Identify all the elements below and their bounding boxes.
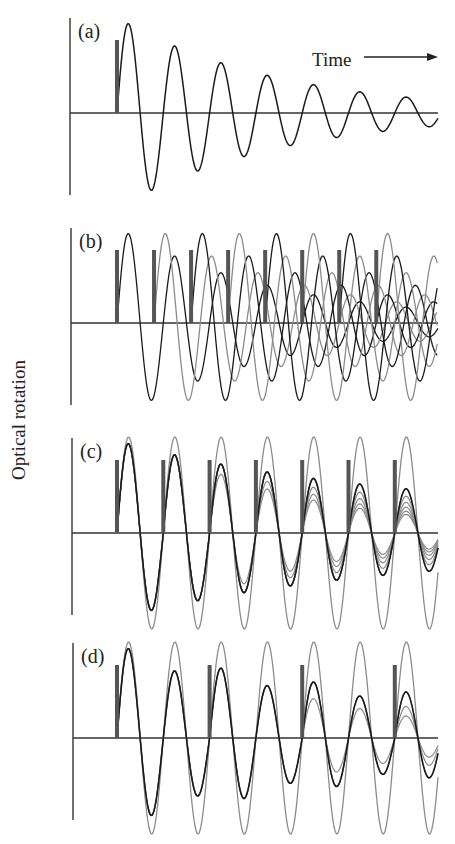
pulse-bar [300, 665, 304, 738]
pulse-bar [152, 250, 156, 323]
pulse-bar [374, 250, 378, 323]
component-wave [117, 234, 438, 401]
panel-label: (d) [81, 645, 104, 668]
panel-label: (b) [79, 230, 102, 253]
pulse-bar [300, 250, 304, 323]
time-arrow-head-icon [427, 53, 438, 61]
summed-wave [117, 649, 438, 816]
pulse-bar [347, 460, 351, 533]
panel-c: (c) [72, 437, 438, 629]
panel-d: (d) [73, 642, 438, 834]
y-axis-label: Optical rotation [8, 360, 30, 480]
pulse-bar [208, 665, 212, 738]
pulse-bar [115, 40, 119, 113]
time-label: Time [312, 49, 351, 70]
pulse-bar [161, 460, 165, 533]
panel-label: (c) [80, 440, 102, 463]
panel-a: (a) [70, 18, 438, 195]
pulse-bar [393, 665, 397, 738]
pulse-bar [115, 460, 119, 533]
pulse-bar [263, 250, 267, 323]
pulse-bar [115, 665, 119, 738]
pulse-bar [337, 250, 341, 323]
panel-label: (a) [78, 20, 100, 43]
figure: (a)(b)(c)(d) Time [0, 0, 455, 844]
pulse-bar [115, 250, 119, 323]
pulse-bar [393, 460, 397, 533]
pulse-bar [300, 460, 304, 533]
time-annotation: Time [312, 49, 438, 70]
pulse-bar [208, 460, 212, 533]
component-wave [339, 234, 437, 401]
component-wave [265, 234, 437, 401]
pulse-bar [226, 250, 230, 323]
panels: (a)(b)(c)(d) [70, 18, 438, 834]
wave [117, 24, 438, 191]
panel-b: (b) [71, 228, 438, 405]
pulse-bar [254, 460, 258, 533]
pulse-bar [189, 250, 193, 323]
